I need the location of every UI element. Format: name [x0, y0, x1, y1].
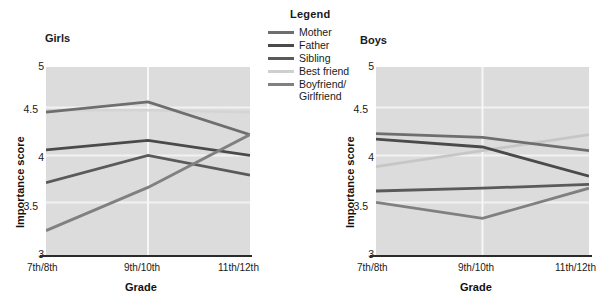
x-tick-boys-9th-10th: 9th/10th — [458, 262, 494, 273]
y-tick-boys-3.5: 3.5 — [344, 200, 368, 212]
legend-label-mother: Mother — [299, 26, 332, 38]
x-axis-line-girls — [40, 255, 252, 257]
legend-swatch-boyfriend-girlfriend — [268, 83, 294, 86]
y-tick-girls-5: 5 — [20, 60, 44, 72]
x-tick-boys-11th-12th: 11th/12th — [555, 262, 596, 273]
legend-swatch-best-friend — [268, 70, 294, 73]
x-tick-boys-7th-8th: 7th/8th — [357, 262, 388, 273]
figure-root: Legend Mother Father Sibling Best friend… — [0, 0, 609, 304]
panel-title-girls: Girls — [45, 32, 70, 44]
y-tick-girls-4.5: 4.5 — [14, 103, 38, 115]
panel-boys: Boys Importance score 5 4.5 4 3.5 3 7th/… — [330, 0, 609, 304]
legend-swatch-sibling — [268, 57, 294, 60]
y-tick-boys-5: 5 — [350, 60, 374, 72]
y-tick-girls-3.5: 3.5 — [14, 200, 38, 212]
plot-svg-boys — [376, 67, 589, 255]
legend-label-sibling: Sibling — [299, 52, 331, 64]
legend-label-father: Father — [299, 39, 329, 51]
legend-swatch-mother — [268, 31, 294, 34]
plot-area-boys — [376, 67, 589, 255]
y-tick-girls-4: 4 — [20, 151, 44, 163]
y-tick-boys-3: 3 — [350, 248, 374, 260]
panel-title-boys: Boys — [360, 34, 387, 46]
legend-swatch-father — [268, 44, 294, 47]
x-tick-girls-9th-10th: 9th/10th — [124, 262, 160, 273]
y-tick-girls-3: 3 — [20, 248, 44, 260]
x-tick-girls-7th-8th: 7th/8th — [27, 262, 58, 273]
plot-svg-girls — [46, 67, 250, 255]
plot-area-girls — [46, 67, 250, 255]
x-axis-label-boys: Grade — [460, 281, 492, 293]
panel-girls: Girls Importance score 5 4.5 4 3.5 3 7th — [0, 0, 270, 304]
x-axis-label-girls: Grade — [125, 281, 157, 293]
y-tick-boys-4.5: 4.5 — [344, 103, 368, 115]
x-tick-girls-11th-12th: 11th/12th — [218, 262, 259, 273]
y-tick-boys-4: 4 — [350, 151, 374, 163]
x-axis-line-boys — [370, 255, 592, 257]
